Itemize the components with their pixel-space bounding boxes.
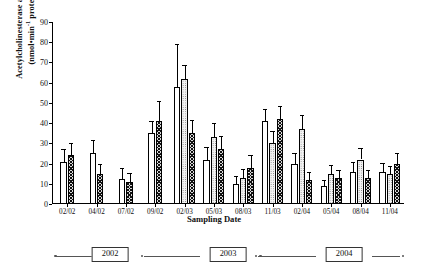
error-bar-cap <box>69 143 73 144</box>
error-bar-whisker <box>122 168 123 179</box>
bar-02-03-open <box>174 87 180 204</box>
x-tick-mark <box>185 204 186 207</box>
error-bar-whisker <box>339 170 340 178</box>
error-bar-cap <box>351 162 355 163</box>
x-tick-mark <box>126 204 127 207</box>
y-axis-title-line2: (nmol•min-1 protein) <box>25 0 37 65</box>
y-axis-title: Acetylcholinesterase activity (nmol•min-… <box>13 0 39 117</box>
error-bar-cap <box>61 149 65 150</box>
error-bar-whisker <box>309 172 310 180</box>
error-bar-whisker <box>236 176 237 184</box>
bar-08-03-open <box>233 184 239 204</box>
bar-09-02-open <box>148 133 154 204</box>
error-bar-cap <box>278 106 282 107</box>
bar-05-03-hatched <box>218 149 224 204</box>
bar-08-03-dotted <box>240 178 246 204</box>
bar-02-03-hatched <box>189 133 195 204</box>
bar-07-02-open <box>119 179 125 204</box>
bar-04-02-open <box>90 153 96 204</box>
error-bar-whisker <box>390 166 391 174</box>
error-bar-cap <box>270 131 274 132</box>
error-bar-whisker <box>331 165 332 174</box>
bar-11-04-hatched <box>394 164 400 204</box>
y-tick-mark <box>49 204 52 205</box>
y-axis-title-units-pre: (nmol•min <box>27 26 36 64</box>
y-tick-mark <box>49 103 52 104</box>
x-tick-mark <box>331 204 332 207</box>
error-bar-whisker <box>243 169 244 178</box>
error-bar-cap <box>241 169 245 170</box>
bar-05-04-dotted <box>328 174 334 204</box>
error-bar-cap <box>358 148 362 149</box>
bar-02-04-hatched <box>306 180 312 204</box>
x-tick-mark <box>155 204 156 207</box>
timeline-endpoint <box>402 255 405 258</box>
bar-08-04-open <box>350 172 356 204</box>
error-bar-whisker <box>93 140 94 153</box>
bar-02-02-open <box>60 162 66 204</box>
error-bar-whisker <box>64 149 65 161</box>
x-tick-mark <box>390 204 391 207</box>
bar-11-03-open <box>262 121 268 204</box>
error-bar-cap <box>263 109 267 110</box>
y-axis-title-units-post: protein) <box>27 0 36 21</box>
error-bar-whisker <box>71 143 72 155</box>
year-label-2004: 2004 <box>326 247 363 262</box>
error-bar-cap <box>366 170 370 171</box>
error-bar-cap <box>300 115 304 116</box>
error-bar-cap <box>395 153 399 154</box>
error-bar-whisker <box>353 162 354 172</box>
bar-11-04-open <box>379 172 385 204</box>
year-label-2002: 2002 <box>92 247 129 262</box>
bar-02-03-dotted <box>181 79 187 204</box>
error-bar-whisker <box>383 163 384 172</box>
y-tick-mark <box>49 184 52 185</box>
timeline-endpoint <box>54 255 57 258</box>
y-tick-mark <box>49 143 52 144</box>
error-bar-whisker <box>207 147 208 159</box>
chart-figure: Acetylcholinesterase activity (nmol•min-… <box>0 0 428 278</box>
error-bar-whisker <box>185 65 186 78</box>
bar-08-03-hatched <box>247 168 253 204</box>
error-bar-whisker <box>221 136 222 149</box>
timeline-connector <box>144 256 200 257</box>
error-bar-whisker <box>100 164 101 174</box>
error-bar-whisker <box>159 101 160 121</box>
bar-04-02-hatched <box>97 174 103 204</box>
timeline-endpoint <box>259 255 262 258</box>
error-bar-cap <box>190 120 194 121</box>
timeline-connector <box>56 256 95 257</box>
x-tick-mark <box>97 204 98 207</box>
y-tick-mark <box>49 22 52 23</box>
y-tick-mark <box>49 42 52 43</box>
error-bar-whisker <box>152 121 153 133</box>
error-bar-cap <box>212 123 216 124</box>
y-tick-mark <box>49 164 52 165</box>
y-tick-mark <box>49 123 52 124</box>
timeline-connector <box>258 256 316 257</box>
x-tick-mark <box>214 204 215 207</box>
error-bar-whisker <box>295 153 296 163</box>
y-tick-mark <box>49 83 52 84</box>
error-bar-cap <box>219 136 223 137</box>
x-tick-mark <box>243 204 244 207</box>
error-bar-cap <box>336 170 340 171</box>
bar-11-03-dotted <box>269 143 275 204</box>
error-bar-cap <box>149 121 153 122</box>
error-bar-whisker <box>280 106 281 119</box>
error-bar-whisker <box>214 123 215 137</box>
bar-08-04-hatched <box>365 178 371 204</box>
bar-08-04-dotted <box>357 160 363 204</box>
bar-05-03-dotted <box>211 137 217 204</box>
error-bar-whisker <box>397 153 398 163</box>
bar-05-04-hatched <box>335 178 341 204</box>
bar-07-02-hatched <box>126 182 132 204</box>
year-timeline: 200220032004 <box>52 243 404 269</box>
year-label-2003: 2003 <box>210 247 247 262</box>
error-bar-whisker <box>302 115 303 129</box>
bar-05-04-open <box>321 186 327 204</box>
error-bar-whisker <box>265 109 266 121</box>
error-bar-cap <box>91 140 95 141</box>
error-bar-whisker <box>368 170 369 178</box>
error-bar-whisker <box>177 44 178 86</box>
